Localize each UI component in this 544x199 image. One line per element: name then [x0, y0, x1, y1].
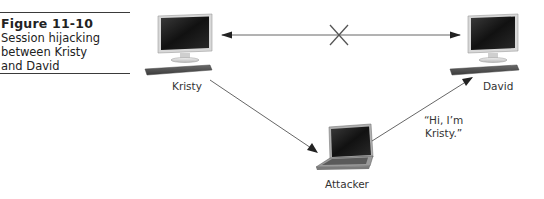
diagram-canvas: [0, 0, 544, 199]
kristy-label: Kristy: [172, 80, 202, 92]
arrowhead-left-icon: [221, 32, 232, 39]
message-line: Kristy.”: [424, 127, 463, 140]
kristy-david-connection: [221, 25, 461, 45]
david-computer-icon: [450, 14, 519, 75]
kristy-attacker-arrow: [210, 80, 318, 153]
message-line: “Hi, I’m: [424, 114, 463, 127]
kristy-computer-icon: [145, 14, 212, 75]
attacker-laptop-icon: [316, 124, 373, 170]
arrowhead-right-icon: [450, 32, 461, 39]
david-label: David: [483, 80, 513, 92]
arrowhead-icon: [462, 77, 473, 86]
attacker-label: Attacker: [325, 178, 369, 190]
arrowhead-icon: [307, 143, 318, 153]
impersonation-message: “Hi, I’m Kristy.”: [424, 114, 463, 140]
